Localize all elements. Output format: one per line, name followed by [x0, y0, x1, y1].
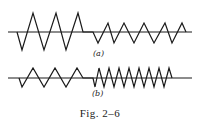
figure-caption: Fig. 2–6 [80, 107, 121, 119]
panel-b-label: (b) [92, 89, 103, 98]
panel-a: (a) [8, 13, 192, 58]
figure-canvas: (a) (b) Fig. 2–6 [0, 0, 200, 125]
panel-b: (b) [8, 68, 192, 98]
panel-a-label: (a) [93, 49, 104, 58]
